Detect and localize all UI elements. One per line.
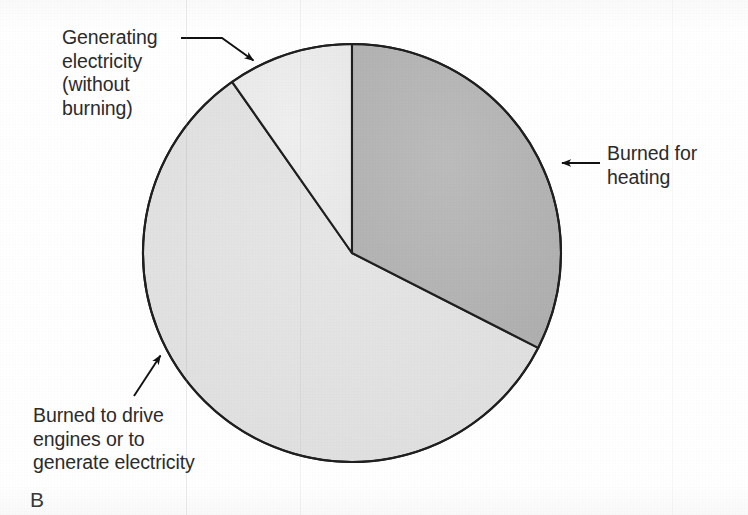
callout-label-burned-for-heating: Burned for heating (607, 142, 697, 189)
scan-streak-artifact (186, 0, 187, 515)
scan-streak-artifact (672, 0, 673, 515)
callout-label-burned-to-drive-engines: Burned to drive engines or to generate e… (33, 404, 195, 475)
callout-label-generating-electricity: Generating electricity (without burning) (62, 26, 157, 120)
scan-streak-artifact (300, 0, 301, 515)
leader-generating-electricity (181, 38, 254, 61)
leader-burned-to-drive-engines (134, 356, 161, 397)
figure-canvas: Generating electricity (without burning)… (0, 0, 748, 515)
figure-letter-label: B (30, 488, 44, 512)
